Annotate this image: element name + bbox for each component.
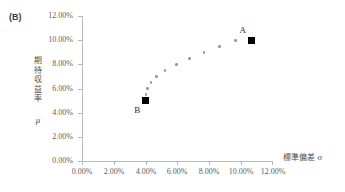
chart-figure: (B) 12.00% 10.00% 8.00% 6.00% 4.00% 2.00… — [0, 0, 345, 192]
x-axis-tick — [114, 161, 115, 165]
y-axis-tick-label: 2.00% — [29, 133, 73, 141]
data-point-dot — [234, 39, 237, 42]
y-axis-title-text: 期 待 収 益 率 — [31, 56, 45, 104]
y-axis-title-char: 待 — [31, 66, 45, 76]
x-axis-tick — [241, 161, 242, 165]
y-axis-tick-label: 0.00% — [29, 157, 73, 165]
data-point-square — [142, 97, 149, 104]
y-axis-tick-label: 10.00% — [29, 36, 73, 44]
y-axis-symbol: μ — [31, 115, 45, 125]
panel-label: (B) — [9, 12, 22, 22]
x-axis-tick — [272, 161, 273, 165]
data-point-dot — [164, 69, 167, 72]
data-point-dot — [146, 87, 149, 90]
data-point-dot — [218, 45, 221, 48]
data-point-dot — [203, 51, 206, 54]
data-point-dot — [150, 81, 153, 84]
y-axis-tick-label: 12.00% — [29, 12, 73, 20]
x-axis-title-text: 標準偏差 — [283, 153, 315, 162]
x-axis-tick — [146, 161, 147, 165]
y-axis-title: 期 待 収 益 率 — [31, 56, 45, 104]
y-axis-title-char: 率 — [31, 94, 45, 104]
plot-area: AB — [82, 16, 272, 161]
x-axis-tick — [82, 161, 83, 165]
data-point-dot — [155, 75, 158, 78]
data-point-dot — [175, 63, 178, 66]
data-point-dot — [188, 57, 191, 60]
data-point-dot — [145, 93, 148, 96]
x-axis-tick — [177, 161, 178, 165]
x-axis-tick-label: 12.00% — [253, 168, 293, 176]
data-point-square — [248, 37, 255, 44]
data-point-label-a: A — [239, 25, 246, 35]
y-axis-title-char: 収 — [31, 75, 45, 85]
x-axis-title: 標準偏差 σ — [283, 151, 322, 162]
x-axis-symbol: σ — [318, 152, 322, 162]
x-axis-tick — [209, 161, 210, 165]
data-point-label-b: B — [134, 105, 140, 115]
y-axis-title-char: 益 — [31, 85, 45, 95]
y-axis-title-char: 期 — [31, 56, 45, 66]
